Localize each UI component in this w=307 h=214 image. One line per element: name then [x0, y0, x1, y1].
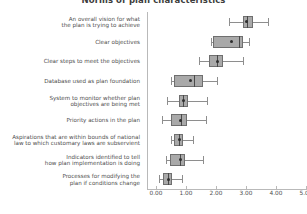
- whisker-cap: [182, 175, 183, 183]
- whisker-cap: [199, 57, 200, 65]
- boxplot-item: [0, 133, 307, 147]
- boxplot-item: [0, 15, 307, 29]
- x-tick-label: 0.00: [141, 190, 171, 196]
- whisker-cap: [193, 136, 194, 144]
- boxplot-item: [0, 113, 307, 127]
- whisker-cap: [203, 156, 204, 164]
- x-tick-label: 3.00: [231, 190, 261, 196]
- median-line: [194, 75, 195, 87]
- median-line: [239, 36, 240, 48]
- whisker-cap: [211, 38, 212, 46]
- x-tick-label: 1.00: [171, 190, 201, 196]
- whisker-cap: [159, 175, 160, 183]
- mean-marker: [182, 99, 185, 102]
- whisker-cap: [207, 97, 208, 105]
- chart-title: Norms of plan characteristics: [0, 0, 307, 5]
- whisker-cap: [171, 77, 172, 85]
- mean-marker: [216, 60, 219, 63]
- whisker-cap: [243, 57, 244, 65]
- boxplot-item: [0, 172, 307, 186]
- boxplot-item: [0, 153, 307, 167]
- whisker-cap: [166, 156, 167, 164]
- mean-marker: [167, 178, 170, 181]
- boxplot-item: [0, 94, 307, 108]
- whisker-cap: [167, 97, 168, 105]
- whisker-cap: [229, 18, 230, 26]
- mean-marker: [179, 158, 182, 161]
- whisker-cap: [217, 77, 218, 85]
- x-tick-label: 5.00: [291, 190, 307, 196]
- box-iqr: [170, 154, 185, 166]
- whisker-cap: [171, 136, 172, 144]
- x-tick-label: 2.00: [201, 190, 231, 196]
- boxplot-item: [0, 74, 307, 88]
- boxplot-chart: Norms of plan characteristics An overall…: [0, 0, 307, 214]
- whisker-cap: [206, 116, 207, 124]
- x-tick-label: 4.00: [261, 190, 291, 196]
- whisker-cap: [268, 18, 269, 26]
- whisker-cap: [162, 116, 163, 124]
- boxplot-item: [0, 35, 307, 49]
- whisker-cap: [249, 38, 250, 46]
- boxplot-item: [0, 54, 307, 68]
